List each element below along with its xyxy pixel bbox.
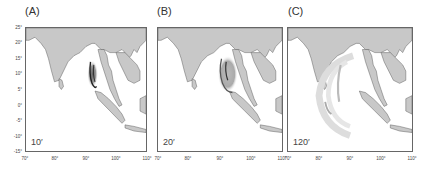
xtick: 80° — [309, 156, 329, 161]
xtick: 90° — [340, 156, 360, 161]
panel-label-c: (C) — [288, 5, 303, 17]
xtick: 70° — [278, 156, 298, 161]
panel-c: (C) 120′ 70° 80° 90° 100° 110° — [0, 0, 427, 173]
time-label-c: 120′ — [293, 137, 310, 147]
map-c: 120′ — [287, 27, 413, 152]
map-svg-c — [288, 28, 412, 151]
xtick: 100° — [371, 156, 391, 161]
xtick: 110° — [402, 156, 422, 161]
